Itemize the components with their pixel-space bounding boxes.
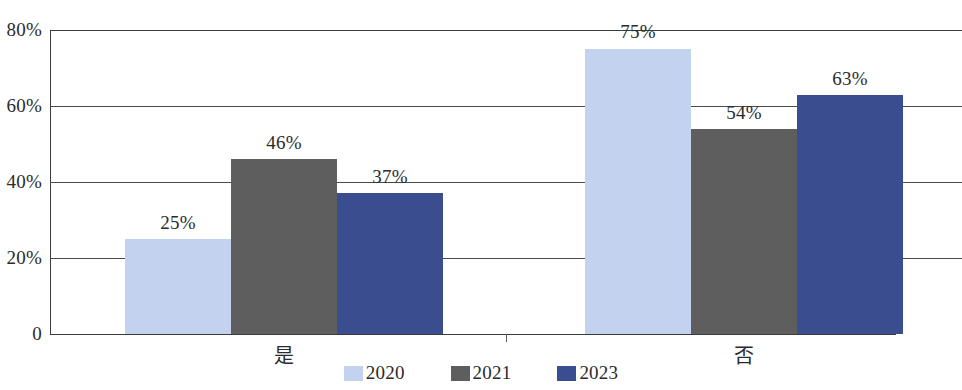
legend-swatch-2020	[344, 366, 363, 381]
legend-label-2020: 2020	[366, 362, 405, 384]
bar-fill-group1-2023	[797, 95, 903, 334]
bar-value-label-group1-2021: 54%	[726, 102, 762, 124]
x-axis-minor-tick	[506, 334, 507, 342]
bar-group0-2023[interactable]: 37%	[337, 193, 443, 334]
bar-fill-group0-2023	[337, 193, 443, 334]
bar-fill-group0-2021	[231, 159, 337, 334]
chart-legend: 2020 2021 2023	[0, 362, 962, 384]
legend-label-2021: 2021	[473, 362, 512, 384]
bar-value-label-group0-2023: 37%	[372, 166, 408, 188]
legend-item-2020[interactable]: 2020	[344, 362, 405, 384]
bar-value-label-group0-2020: 25%	[160, 212, 196, 234]
bar-chart: 80% 60% 40% 20% 0 25% 46% 37% 75%	[0, 0, 962, 390]
bar-fill-group1-2020	[585, 49, 691, 334]
gridline-80	[50, 30, 962, 31]
bar-group1-2023[interactable]: 63%	[797, 95, 903, 334]
y-tick-label-20: 20%	[0, 247, 42, 269]
bar-group1-2021[interactable]: 54%	[691, 129, 797, 334]
plot-area: 25% 46% 37% 75% 54% 63%	[50, 30, 962, 334]
bar-group0-2021[interactable]: 46%	[231, 159, 337, 334]
y-tick-label-0: 0	[0, 323, 42, 345]
legend-swatch-2021	[451, 366, 470, 381]
legend-item-2023[interactable]: 2023	[557, 362, 618, 384]
y-tick-label-40: 40%	[0, 171, 42, 193]
x-axis-baseline	[50, 334, 896, 335]
bar-value-label-group0-2021: 46%	[266, 132, 302, 154]
bar-value-label-group1-2023: 63%	[832, 68, 868, 90]
bar-group1-2020[interactable]: 75%	[585, 49, 691, 334]
y-tick-label-80: 80%	[0, 19, 42, 41]
y-tick-label-60: 60%	[0, 95, 42, 117]
bar-fill-group1-2021	[691, 129, 797, 334]
legend-item-2021[interactable]: 2021	[451, 362, 512, 384]
legend-label-2023: 2023	[579, 362, 618, 384]
bar-group0-2020[interactable]: 25%	[125, 239, 231, 334]
legend-swatch-2023	[557, 366, 576, 381]
bar-value-label-group1-2020: 75%	[620, 21, 656, 43]
bar-fill-group0-2020	[125, 239, 231, 334]
